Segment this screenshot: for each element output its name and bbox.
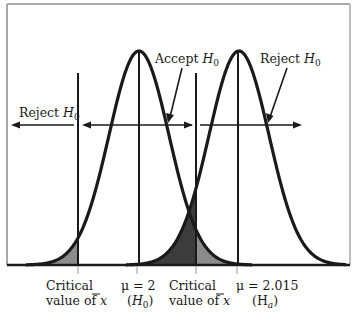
frame (7, 4, 350, 265)
hypothesis-test-diagram: Reject H0 Accept H0 Reject H0 Critical v… (0, 0, 352, 316)
mua-label: μ = 2.015 (236, 278, 298, 293)
critical-right-line1: Critical (169, 278, 216, 293)
critical-left-line1: Critical (46, 278, 93, 293)
arrowhead-accept-left-icon (82, 122, 91, 129)
critical-right-line2: value of x (168, 293, 230, 308)
arrowhead-left-icon (11, 122, 20, 129)
accept-h0-label: Accept H0 (154, 51, 219, 68)
axis-ticks (78, 266, 237, 274)
critical-left-line2: value of x (45, 293, 107, 308)
arrowhead-accept-right-icon (184, 122, 193, 129)
ha-label: (Ha) (252, 293, 278, 310)
h0-label: (H0) (127, 293, 153, 310)
arrowhead-right-icon (293, 122, 302, 129)
reject-h0-left-label: Reject H0 (19, 105, 80, 122)
reject-h0-right-label: Reject H0 (260, 51, 321, 68)
mu0-label: μ = 2 (121, 278, 156, 293)
ha-normal-curve (126, 51, 346, 265)
accept-pointer-arrow (170, 68, 182, 117)
reject-pointer-arrow (270, 68, 287, 117)
